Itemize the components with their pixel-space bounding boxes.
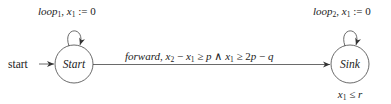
state-start[interactable]: Start (55, 45, 93, 83)
state-start-label: Start (63, 58, 86, 70)
loop1-label: loop1, x1 := 0 (38, 5, 96, 19)
automaton-diagram: start Start loop1, x1 := 0 forward, x2 −… (0, 0, 391, 104)
initial-label: start (8, 58, 29, 70)
loop2-label: loop2, x1 := 0 (313, 5, 371, 19)
loop2-edge (344, 31, 357, 46)
state-sink[interactable]: Sink (331, 45, 369, 83)
sink-invariant: x1 ≤ r (337, 88, 363, 102)
loop1-edge (68, 31, 81, 46)
forward-label: forward, x2 − x1 ≥ p ∧ x1 ≥ 2p − q (125, 50, 274, 64)
state-sink-label: Sink (340, 58, 361, 70)
